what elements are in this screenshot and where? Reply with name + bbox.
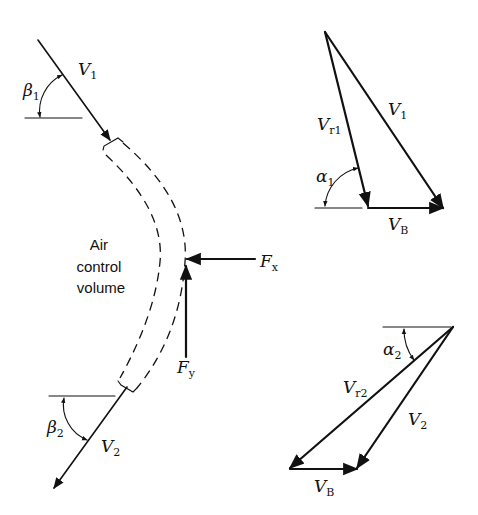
outlet-triangle-vr2-label: Vr2 xyxy=(343,377,368,400)
beta1-angle-arc xyxy=(40,75,62,117)
control-volume-label: Air control volume xyxy=(76,236,125,296)
alpha2-angle-arc xyxy=(404,329,414,360)
inlet-triangle-vb-label: VB xyxy=(388,214,408,237)
alpha1-label: α1 xyxy=(316,166,334,189)
inlet-triangle-v1-label: V1 xyxy=(388,99,407,122)
beta1-label: β1 xyxy=(22,80,40,103)
blade-flow-diagram: β1 V1 Air control volume Fx Fy β2 V xyxy=(0,0,478,515)
outlet-velocity-triangle xyxy=(290,327,453,469)
inlet-triangle-vr1-label: Vr1 xyxy=(317,114,342,137)
alpha2-label: α2 xyxy=(383,339,401,362)
beta2-label: β2 xyxy=(46,417,64,440)
fx-label: Fx xyxy=(259,251,279,274)
inlet-velocity-arrow xyxy=(38,40,110,140)
v2-label: V2 xyxy=(101,436,120,459)
beta2-angle-arc xyxy=(63,398,87,440)
outlet-triangle-v2-label: V2 xyxy=(408,409,427,432)
outlet-velocity-arrow xyxy=(54,387,127,488)
fy-label: Fy xyxy=(176,357,196,380)
outlet-triangle-vb-label: VB xyxy=(314,476,334,499)
v1-label: V1 xyxy=(78,59,97,82)
inlet-triangle-v1-arrow xyxy=(325,32,443,208)
